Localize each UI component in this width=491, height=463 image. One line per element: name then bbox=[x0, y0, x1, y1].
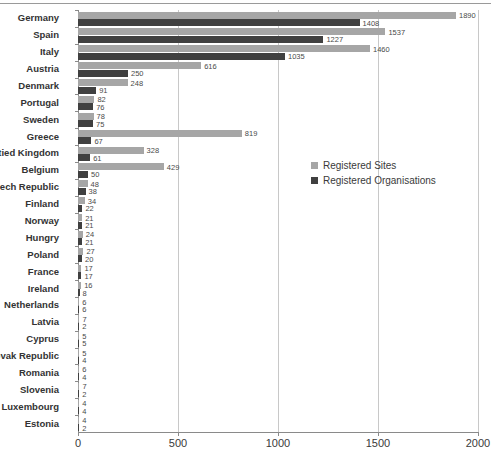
bar-registered-sites bbox=[78, 45, 370, 52]
category-label-untied-kingdom: Untied Kingdom bbox=[0, 148, 59, 158]
bar-row: Netherlands66 bbox=[78, 297, 478, 314]
category-label-sweden: Sweden bbox=[0, 115, 59, 125]
x-tick-label-1000: 1000 bbox=[248, 437, 308, 449]
bar-value-registered-sites: 616 bbox=[204, 63, 217, 70]
bar-value-registered-organisations: 4 bbox=[82, 357, 86, 364]
bar-value-registered-organisations: 4 bbox=[82, 374, 86, 381]
bar-registered-organisations bbox=[78, 306, 79, 313]
bar-registered-organisations bbox=[78, 53, 285, 60]
bar-value-registered-organisations: 8 bbox=[83, 290, 87, 297]
bar-registered-sites bbox=[78, 180, 88, 187]
legend-swatch-organisations bbox=[311, 177, 318, 184]
bar-registered-sites bbox=[78, 315, 79, 322]
category-label-slovenia: Slovenia bbox=[0, 385, 59, 395]
bar-row: France1717 bbox=[78, 263, 478, 280]
bar-registered-sites bbox=[78, 214, 82, 221]
bar-value-registered-organisations: 22 bbox=[85, 205, 93, 212]
x-tick-mark-1000 bbox=[278, 432, 279, 436]
category-label-poland: Poland bbox=[0, 250, 59, 260]
bar-registered-organisations bbox=[78, 19, 360, 26]
category-label-ireland: Ireland bbox=[0, 284, 59, 294]
bar-registered-sites bbox=[78, 113, 94, 120]
legend-label-sites: Registered Sites bbox=[323, 160, 396, 171]
bar-value-registered-sites: 429 bbox=[167, 164, 180, 171]
bar-value-registered-organisations: 67 bbox=[94, 138, 102, 145]
category-label-hungry: Hungry bbox=[0, 233, 59, 243]
bar-value-registered-organisations: 2 bbox=[82, 323, 86, 330]
bar-value-registered-organisations: 2 bbox=[82, 391, 86, 398]
legend-label-organisations: Registered Organisations bbox=[323, 175, 436, 186]
bar-row: Estonia42 bbox=[78, 415, 478, 432]
category-label-germany: Germany bbox=[0, 13, 59, 23]
bar-registered-organisations bbox=[78, 289, 80, 296]
bar-registered-organisations bbox=[78, 373, 79, 380]
bar-value-registered-sites: 819 bbox=[245, 130, 258, 137]
bar-registered-organisations bbox=[78, 238, 82, 245]
bar-row: Sweden7875 bbox=[78, 111, 478, 128]
bar-registered-organisations bbox=[78, 390, 79, 397]
bar-registered-organisations bbox=[78, 357, 79, 364]
bar-value-registered-organisations: 250 bbox=[131, 70, 144, 77]
bar-row: Luxembourg44 bbox=[78, 398, 478, 415]
bar-registered-organisations bbox=[78, 171, 88, 178]
category-label-czech-republic: Czech Republic bbox=[0, 182, 59, 192]
bar-row: Cyprus55 bbox=[78, 331, 478, 348]
x-tick-mark-2000 bbox=[478, 432, 479, 436]
bar-registered-sites bbox=[78, 147, 144, 154]
bar-value-registered-organisations: 4 bbox=[82, 408, 86, 415]
category-label-romania: Romania bbox=[0, 368, 59, 378]
bar-value-registered-organisations: 50 bbox=[91, 171, 99, 178]
bar-registered-organisations bbox=[78, 154, 90, 161]
bar-value-registered-sites: 328 bbox=[147, 147, 160, 154]
legend-item-registered-organisations: Registered Organisations bbox=[311, 173, 436, 188]
x-tick-mark-1500 bbox=[378, 432, 379, 436]
bar-row: Slovenia72 bbox=[78, 381, 478, 398]
gridline-2000 bbox=[478, 10, 479, 432]
bar-row: Germany18901408 bbox=[78, 10, 478, 27]
bar-row: Italy14601035 bbox=[78, 44, 478, 61]
bar-rows: Germany18901408Spain15371227Italy1460103… bbox=[78, 10, 478, 432]
bar-row: Austria616250 bbox=[78, 61, 478, 78]
bar-value-registered-organisations: 91 bbox=[99, 87, 107, 94]
bar-value-registered-sites: 1460 bbox=[373, 46, 390, 53]
bar-registered-sites bbox=[78, 265, 81, 272]
bar-row: Slovak Republic54 bbox=[78, 348, 478, 365]
category-label-belgium: Belgium bbox=[0, 165, 59, 175]
x-tick-label-1500: 1500 bbox=[348, 437, 408, 449]
category-label-austria: Austria bbox=[0, 64, 59, 74]
bar-registered-organisations bbox=[78, 222, 82, 229]
bar-registered-organisations bbox=[78, 424, 79, 431]
legend-swatch-sites bbox=[311, 162, 318, 169]
bar-registered-sites bbox=[78, 163, 164, 170]
bar-registered-sites bbox=[78, 28, 385, 35]
category-label-latvia: Latvia bbox=[0, 317, 59, 327]
category-label-italy: Italy bbox=[0, 47, 59, 57]
bar-value-registered-organisations: 6 bbox=[82, 306, 86, 313]
bar-registered-sites bbox=[78, 298, 79, 305]
bar-registered-organisations bbox=[78, 137, 91, 144]
bar-registered-sites bbox=[78, 197, 85, 204]
bar-registered-sites bbox=[78, 248, 83, 255]
bar-value-registered-organisations: 1035 bbox=[288, 53, 305, 60]
bar-registered-organisations bbox=[78, 340, 79, 347]
legend-item-registered-sites: Registered Sites bbox=[311, 158, 436, 173]
bar-registered-organisations bbox=[78, 87, 96, 94]
bar-value-registered-organisations: 1227 bbox=[326, 36, 343, 43]
bar-row: Norway2121 bbox=[78, 213, 478, 230]
bar-value-registered-organisations: 75 bbox=[96, 121, 104, 128]
bar-value-registered-organisations: 17 bbox=[84, 273, 92, 280]
bar-row: Romania64 bbox=[78, 364, 478, 381]
category-label-portugal: Portugal bbox=[0, 98, 59, 108]
bar-row: Greece81967 bbox=[78, 128, 478, 145]
bar-registered-organisations bbox=[78, 36, 323, 43]
bar-registered-sites bbox=[78, 282, 81, 289]
bar-registered-sites bbox=[78, 383, 79, 390]
bar-registered-organisations bbox=[78, 103, 93, 110]
category-label-cyprus: Cyprus bbox=[0, 334, 59, 344]
top-divider bbox=[0, 3, 491, 4]
bar-value-registered-organisations: 21 bbox=[85, 239, 93, 246]
bar-registered-organisations bbox=[78, 70, 128, 77]
legend: Registered Sites Registered Organisation… bbox=[311, 158, 436, 188]
category-label-slovak-republic: Slovak Republic bbox=[0, 351, 59, 361]
bar-value-registered-sites: 1537 bbox=[388, 29, 405, 36]
